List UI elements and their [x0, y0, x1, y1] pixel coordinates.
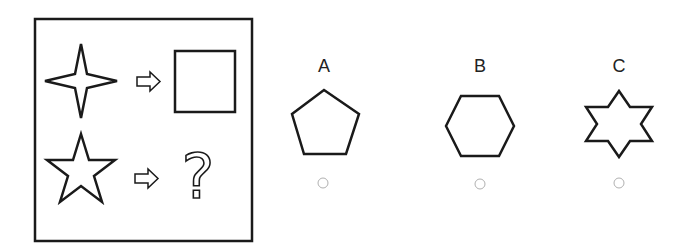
radio-button[interactable]	[475, 179, 485, 189]
five-point-star-icon	[47, 134, 115, 202]
option-label: C	[613, 56, 626, 76]
hexagon-icon	[446, 96, 514, 156]
six-point-star-icon	[586, 91, 652, 157]
puzzle-canvas: ? A B C	[0, 0, 693, 245]
square-icon	[175, 51, 235, 112]
prompt-panel: ?	[35, 19, 252, 241]
option-label: B	[474, 56, 486, 76]
four-point-star-icon	[45, 44, 117, 118]
panel-border	[35, 19, 252, 241]
radio-button[interactable]	[614, 178, 624, 188]
option-c[interactable]: C	[586, 56, 652, 188]
arrow-icon	[135, 169, 158, 188]
option-b[interactable]: B	[446, 56, 514, 189]
radio-button[interactable]	[318, 178, 328, 188]
option-label: A	[318, 56, 330, 76]
pentagon-icon	[292, 90, 359, 154]
option-a[interactable]: A	[292, 56, 359, 188]
question-mark-icon: ?	[182, 140, 215, 213]
arrow-icon	[137, 72, 160, 91]
